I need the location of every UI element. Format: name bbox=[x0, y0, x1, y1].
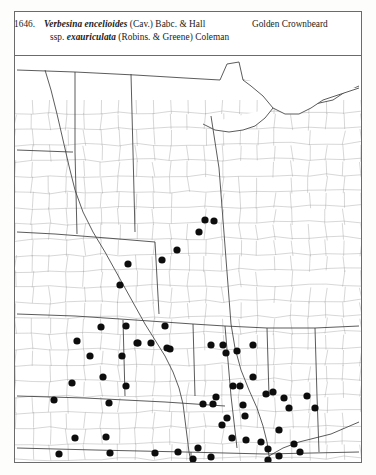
occurrence-dot bbox=[257, 438, 264, 445]
distribution-map bbox=[14, 55, 362, 463]
subspecies-authority: (Robins. & Greene) Coleman bbox=[118, 32, 229, 42]
occurrence-dot bbox=[122, 382, 129, 389]
occurrence-dot bbox=[86, 352, 93, 359]
occurrence-dot bbox=[269, 388, 276, 395]
occurrence-dot bbox=[106, 449, 113, 456]
species-name: Verbesina encelioides bbox=[44, 19, 127, 29]
occurrence-dot bbox=[55, 450, 62, 457]
species-authority-text: (Cav.) Babc. & Hall bbox=[130, 19, 205, 29]
occurrence-dot bbox=[50, 396, 57, 403]
occurrence-dot bbox=[212, 393, 219, 400]
occurrence-dot bbox=[209, 400, 216, 407]
occurrence-dot bbox=[189, 455, 196, 462]
occurrence-dot bbox=[264, 445, 271, 452]
county-grid-layer bbox=[15, 100, 361, 461]
occurrence-dot bbox=[223, 414, 230, 421]
caption-line-primary: 1646.Verbesina encelioides (Cav.) Babc. … bbox=[14, 18, 205, 30]
hydrography-layer bbox=[17, 62, 359, 462]
common-name: Golden Crownbeard bbox=[252, 18, 328, 30]
occurrence-dot bbox=[280, 394, 287, 401]
occurrence-dot bbox=[122, 322, 129, 329]
occurrence-dot bbox=[124, 260, 131, 267]
occurrence-dot bbox=[210, 217, 217, 224]
occurrence-dot bbox=[161, 322, 168, 329]
subspecies-prefix: ssp. bbox=[50, 32, 64, 42]
occurrence-dot bbox=[275, 426, 282, 433]
occurrence-dot bbox=[166, 345, 173, 352]
occurrence-dot bbox=[249, 341, 256, 348]
occurrence-dot bbox=[311, 404, 318, 411]
occurrence-dot bbox=[303, 392, 310, 399]
occurrence-dot bbox=[290, 440, 297, 447]
occurrence-dot bbox=[233, 347, 240, 354]
occurrence-dot bbox=[116, 281, 123, 288]
occurrence-dot bbox=[68, 379, 75, 386]
occurrence-dot bbox=[201, 216, 208, 223]
caption-text-block: 1646.Verbesina encelioides (Cav.) Babc. … bbox=[14, 18, 362, 54]
occurrence-dot bbox=[275, 452, 282, 459]
occurrence-dot bbox=[174, 448, 181, 455]
occurrence-dot bbox=[173, 246, 180, 253]
occurrence-dot bbox=[296, 448, 303, 455]
occurrence-dot bbox=[147, 339, 154, 346]
occurrence-dot bbox=[97, 323, 104, 330]
subspecies-name: exauriculata bbox=[67, 32, 116, 42]
occurrence-dot bbox=[249, 373, 256, 380]
occurrence-dot bbox=[194, 444, 201, 451]
occurrence-dot bbox=[158, 256, 165, 263]
occurrence-dot bbox=[199, 400, 206, 407]
occurrence-dot bbox=[241, 412, 248, 419]
atlas-page: 1646.Verbesina encelioides (Cav.) Babc. … bbox=[0, 0, 376, 475]
occurrence-dot bbox=[222, 349, 229, 356]
occurrence-dot bbox=[102, 433, 109, 440]
occurrence-dot bbox=[71, 434, 78, 441]
occurrence-dot bbox=[207, 341, 214, 348]
occurrence-dot bbox=[219, 341, 226, 348]
occurrence-dot bbox=[151, 449, 158, 456]
occurrence-dot bbox=[195, 228, 202, 235]
occurrence-dot bbox=[285, 404, 292, 411]
occurrence-dot bbox=[118, 352, 125, 359]
occurrence-dot bbox=[134, 339, 141, 346]
occurrence-dot bbox=[99, 373, 106, 380]
caption-line-subspecies: ssp. exauriculata (Robins. & Greene) Col… bbox=[50, 31, 229, 43]
occurrence-dot bbox=[236, 382, 243, 389]
occurrence-dot bbox=[229, 382, 236, 389]
occurrence-dot bbox=[239, 401, 246, 408]
occurrence-dot bbox=[242, 436, 249, 443]
entry-number: 1646. bbox=[14, 18, 44, 30]
occurrence-dot bbox=[73, 337, 80, 344]
occurrence-dot bbox=[228, 434, 235, 441]
map-canvas bbox=[15, 56, 361, 462]
occurrence-dot bbox=[262, 390, 269, 397]
occurrence-dot bbox=[218, 421, 225, 428]
occurrence-dot bbox=[207, 453, 214, 460]
occurrence-dot bbox=[105, 399, 112, 406]
